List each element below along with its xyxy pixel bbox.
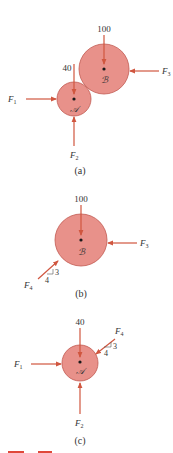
force-label-f1: F1 bbox=[7, 94, 17, 105]
caption-b: (b) bbox=[75, 288, 87, 300]
panel-c: 𝒜 40 F1 F2 3 4 F4 (c) bbox=[13, 317, 124, 447]
body-label-b: ℬ bbox=[78, 247, 86, 257]
panel-a: ℬ 𝒜 100 40 F1 F2 F3 (a) bbox=[7, 24, 171, 177]
force-label-f4: F4 bbox=[114, 326, 124, 337]
center-dot-b bbox=[102, 67, 105, 70]
force-label-f1: F1 bbox=[13, 359, 23, 370]
body-label-b: ℬ bbox=[101, 75, 109, 85]
caption-c: (c) bbox=[74, 435, 85, 447]
force-label-f3: F3 bbox=[161, 66, 171, 77]
slope-run-f4: 4 bbox=[104, 349, 108, 358]
load-label-40: 40 bbox=[63, 63, 73, 73]
load-label-40: 40 bbox=[76, 317, 86, 327]
free-body-diagram-figure: ℬ 𝒜 100 40 F1 F2 F3 (a) ℬ 100 F3 3 4 bbox=[0, 0, 173, 453]
slope-run-f4: 4 bbox=[45, 276, 49, 285]
caption-a: (a) bbox=[74, 165, 85, 177]
panel-b: ℬ 100 F3 3 4 F4 (b) bbox=[23, 194, 149, 300]
force-label-f2: F2 bbox=[74, 418, 84, 429]
load-label-100: 100 bbox=[74, 194, 88, 204]
force-label-f3: F3 bbox=[139, 238, 149, 249]
center-dot-b bbox=[79, 238, 82, 241]
load-label-100: 100 bbox=[97, 24, 111, 34]
slope-rise-f4: 3 bbox=[55, 268, 59, 277]
force-label-f4: F4 bbox=[23, 280, 33, 291]
force-label-f2: F2 bbox=[69, 150, 79, 161]
slope-rise-f4: 3 bbox=[113, 342, 117, 351]
center-dot-a bbox=[78, 360, 81, 363]
center-dot-a bbox=[72, 97, 75, 100]
